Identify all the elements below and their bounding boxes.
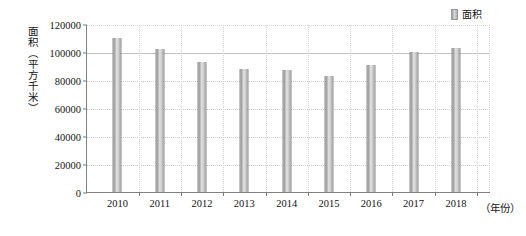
x-tick-label: 2011: [149, 198, 170, 209]
y-tick-label: 100000: [50, 48, 88, 59]
x-gridline: [435, 25, 436, 192]
x-tick-mark: [266, 192, 267, 196]
bar-chart-figure: 面积 面积（平方千米） 0200004000060000800001000001…: [0, 0, 526, 236]
x-gridline: [308, 25, 309, 192]
x-tick-label: 2017: [403, 198, 424, 209]
x-tick-mark: [435, 192, 436, 196]
x-gridline: [266, 25, 267, 192]
x-tick-label: 2013: [234, 198, 255, 209]
x-gridline: [350, 25, 351, 192]
x-tick-mark: [139, 192, 140, 196]
x-tick-label: 2012: [192, 198, 213, 209]
x-gridline: [477, 25, 478, 192]
x-tick-label: 2010: [107, 198, 128, 209]
x-gridline: [181, 25, 182, 192]
bar-2010[interactable]: [113, 38, 122, 192]
y-tick-label: 20000: [55, 160, 87, 171]
x-tick-mark: [350, 192, 351, 196]
x-tick-label: 2015: [318, 198, 339, 209]
x-tick-label: 2016: [361, 198, 382, 209]
y-tick-label: 120000: [50, 20, 88, 31]
x-axis-unit-label: （年份）: [480, 200, 520, 215]
x-gridline: [139, 25, 140, 192]
x-tick-mark: [477, 192, 478, 196]
y-gridline: [87, 53, 490, 54]
y-tick-label: 40000: [55, 132, 87, 143]
x-tick-mark: [308, 192, 309, 196]
x-gridline: [392, 25, 393, 192]
y-axis-title: 面积（平方千米）: [22, 26, 37, 114]
chart-legend: 面积: [451, 9, 482, 20]
x-gridline: [223, 25, 224, 192]
x-tick-mark: [181, 192, 182, 196]
legend-label: 面积: [462, 10, 482, 20]
plot-area: 0200004000060000800001000001200002010201…: [86, 25, 490, 193]
bar-2017[interactable]: [409, 52, 418, 192]
y-tick-label: 80000: [55, 76, 87, 87]
bar-2018[interactable]: [451, 48, 460, 192]
y-gridline: [87, 25, 490, 26]
x-tick-label: 2018: [445, 198, 466, 209]
bar-2012[interactable]: [198, 62, 207, 192]
x-tick-label: 2014: [276, 198, 297, 209]
bar-2015[interactable]: [324, 76, 333, 192]
bar-2014[interactable]: [282, 70, 291, 192]
legend-swatch-icon: [451, 9, 458, 20]
bar-2013[interactable]: [240, 69, 249, 192]
x-tick-mark: [223, 192, 224, 196]
y-tick-label: 0: [76, 188, 87, 199]
y-tick-label: 60000: [55, 104, 87, 115]
bar-2016[interactable]: [367, 65, 376, 192]
bar-2011[interactable]: [155, 49, 164, 192]
x-tick-mark: [392, 192, 393, 196]
